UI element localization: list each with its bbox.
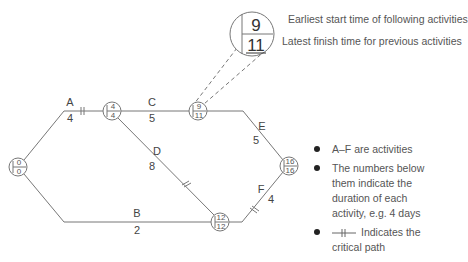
- node-2-top: 4: [111, 102, 116, 111]
- node-3: 9 11: [189, 102, 207, 120]
- legend: A–F are activities The numbers below the…: [312, 142, 430, 259]
- activity-e-label: E: [258, 120, 265, 132]
- activity-e-duration: 5: [253, 134, 259, 146]
- activity-d-label: D: [153, 145, 161, 157]
- bullet-icon: [314, 146, 320, 152]
- activity-b-duration: 2: [134, 224, 140, 236]
- bullet-icon: [314, 165, 320, 171]
- legend-item-critical-path: Indicates the critical path: [312, 225, 430, 255]
- activity-d-duration: 8: [149, 160, 155, 172]
- critical-path-markers: [81, 107, 259, 213]
- legend-item-durations: The numbers below them indicate the dura…: [312, 161, 430, 221]
- node-2-bottom: 4: [111, 111, 116, 120]
- activity-a-arrow: [24, 111, 104, 160]
- activity-b-arrow: [24, 174, 211, 222]
- activity-a-label: A: [66, 96, 74, 108]
- callout-leader-right: [204, 50, 266, 104]
- callout-bottom-label: Latest finish time for previous activiti…: [282, 35, 462, 47]
- activity-f-arrow: [229, 172, 283, 222]
- node-1-top: 0: [17, 158, 22, 167]
- node-5-bottom: 16: [286, 166, 295, 175]
- node-4: 12 12: [211, 213, 229, 231]
- bullet-icon: [314, 229, 320, 235]
- callout-node: 9 11: [230, 12, 274, 56]
- activity-c-duration: 5: [149, 112, 155, 124]
- activity-b-label: B: [133, 207, 140, 219]
- node-3-bottom: 11: [195, 111, 204, 120]
- node-3-top: 9: [197, 102, 202, 111]
- activity-a-duration: 4: [67, 112, 73, 124]
- callout-top-value: 9: [251, 16, 260, 35]
- activity-e-arrow: [206, 111, 283, 160]
- node-5: 16 16: [280, 157, 298, 175]
- node-5-top: 16: [286, 157, 295, 166]
- legend-item-activities: A–F are activities: [312, 142, 430, 157]
- activity-d-arrow: [117, 117, 214, 215]
- node-4-top: 12: [217, 213, 226, 222]
- node-1: 0 0: [9, 158, 27, 176]
- callout-top-label: Earliest start time of following activit…: [288, 13, 468, 25]
- activity-f-label: F: [258, 183, 265, 195]
- node-1-bottom: 0: [17, 167, 22, 176]
- callout-leader-left: [194, 48, 237, 104]
- node-2: 4 4: [103, 102, 121, 120]
- critical-path-marker-icon: [332, 228, 356, 238]
- callout-bottom-value: 11: [247, 36, 265, 55]
- activity-c-label: C: [148, 96, 156, 108]
- node-4-bottom: 12: [217, 222, 226, 231]
- activity-f-duration: 4: [268, 193, 274, 205]
